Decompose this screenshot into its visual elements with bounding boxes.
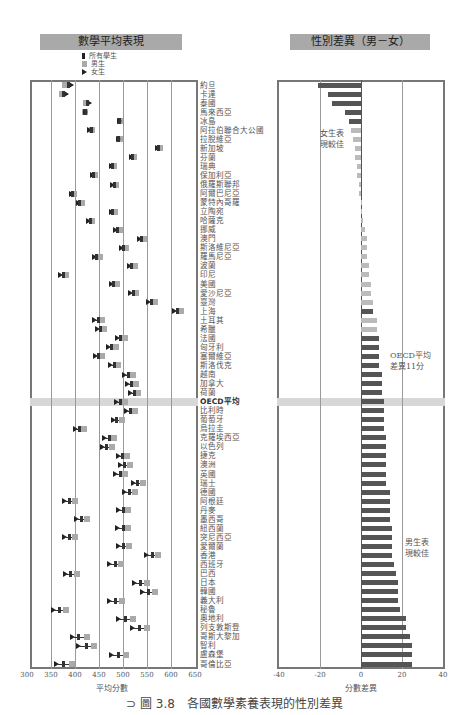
all-students-marker <box>97 317 100 323</box>
gender-gap-bar <box>351 128 361 133</box>
gender-gap-bar <box>361 417 384 422</box>
gender-gap-bar <box>361 616 406 621</box>
gender-gap-bar <box>361 662 412 667</box>
girls-marker <box>54 661 59 667</box>
boys-marker <box>119 417 125 423</box>
gender-gap-bar <box>361 634 410 639</box>
gender-gap-bar <box>361 263 369 268</box>
gender-gap-bar <box>361 571 396 576</box>
country-label: 紐西蘭 <box>200 524 224 533</box>
all-students-marker <box>89 218 92 224</box>
gender-gap-bar <box>361 390 382 395</box>
all-students-marker <box>78 200 81 206</box>
all-students-marker <box>129 408 132 414</box>
country-label: 丹麥 <box>200 506 216 515</box>
country-label: 芬蘭 <box>200 153 216 162</box>
boys-marker <box>124 453 130 459</box>
boys-marker <box>152 589 158 595</box>
all-students-marker <box>78 426 81 432</box>
all-students-marker <box>122 507 125 513</box>
girls-marker <box>144 552 149 558</box>
country-label: 臺灣 <box>200 298 216 307</box>
country-label: 印尼 <box>200 270 216 279</box>
gender-gap-bar <box>361 236 367 241</box>
boys-marker <box>99 353 105 359</box>
girls-marker <box>116 616 121 622</box>
all-students-marker <box>157 145 160 151</box>
left-x-tick: 600 <box>164 671 177 679</box>
gender-gap-bar <box>361 544 392 549</box>
all-students-marker <box>131 154 134 160</box>
all-students-marker <box>150 299 153 305</box>
boys-marker <box>72 498 78 504</box>
country-label: 比利時 <box>200 406 224 415</box>
all-students-marker <box>138 625 141 631</box>
right-panel-title: 性別差異（男－女） <box>290 34 430 50</box>
boys-marker <box>101 326 107 332</box>
all-students-marker <box>105 444 108 450</box>
gender-gap-bar <box>359 191 361 196</box>
country-label: 蒙特內哥羅 <box>200 198 240 207</box>
left-x-axis-label: 平均分數 <box>96 682 128 693</box>
gender-gap-bar <box>361 426 384 431</box>
left-x-tick: 350 <box>44 671 57 679</box>
gender-gap-bar <box>361 526 392 531</box>
country-label: 挪威 <box>200 225 216 234</box>
country-label: 希臘 <box>200 325 216 334</box>
all-students-marker <box>112 281 115 287</box>
girls-marker <box>69 82 74 88</box>
country-label: 墨西哥 <box>200 515 224 524</box>
boys-marker <box>84 634 90 640</box>
gender-gap-bar <box>355 146 361 151</box>
country-label: 立陶宛 <box>200 207 224 216</box>
gender-gap-bar <box>361 209 362 214</box>
gender-gap-bar <box>361 481 386 486</box>
country-label: 克羅埃西亞 <box>200 433 240 442</box>
boys-marker <box>84 516 90 522</box>
all-students-marker <box>122 543 125 549</box>
gender-gap-bar <box>355 155 361 160</box>
all-students-marker <box>130 381 133 387</box>
boys-legend-icon <box>82 61 87 67</box>
country-label: 斯洛伐克 <box>200 361 232 370</box>
gender-gap-bar <box>361 218 363 223</box>
boys-marker <box>123 652 129 658</box>
gender-gap-bar <box>361 517 390 522</box>
all-students-marker <box>86 100 89 106</box>
all-students-marker <box>119 335 122 341</box>
gender-gap-bar <box>361 354 379 359</box>
all-students-marker <box>133 390 136 396</box>
gender-gap-bar <box>357 173 361 178</box>
left-gridline <box>99 80 100 669</box>
boys-marker <box>133 381 139 387</box>
all-students-marker <box>67 82 70 88</box>
gender-gap-bar <box>361 345 379 350</box>
left-gridline <box>75 80 76 669</box>
gender-gap-bar <box>361 553 392 558</box>
boys-marker <box>144 625 150 631</box>
all-students-marker <box>110 344 113 350</box>
country-label: 義大利 <box>200 596 224 605</box>
all-students-marker <box>69 571 72 577</box>
country-label: 匈牙利 <box>200 343 224 352</box>
country-label: 葡萄牙 <box>200 415 224 424</box>
all-students-marker <box>119 471 122 477</box>
all-students-marker <box>68 498 71 504</box>
legend-girls: 女生 <box>82 68 105 76</box>
right-x-axis-label: 分數差異 <box>345 682 377 693</box>
all-students-legend-icon <box>82 53 85 59</box>
gender-gap-bar <box>361 444 386 449</box>
all-students-marker <box>118 118 121 124</box>
all-students-marker <box>122 245 125 251</box>
gender-gap-bar <box>361 435 386 440</box>
left-gridline <box>171 80 172 669</box>
country-label: 荷蘭 <box>200 388 216 397</box>
country-label: 西班牙 <box>200 560 224 569</box>
country-label: 哥倫比亞 <box>200 660 232 669</box>
country-label: 加拿大 <box>200 379 224 388</box>
country-label: 上海 <box>200 307 216 316</box>
gender-gap-bar <box>361 336 379 341</box>
gender-gap-bar <box>361 291 371 296</box>
girls-marker <box>107 598 112 604</box>
all-students-marker <box>111 209 114 215</box>
